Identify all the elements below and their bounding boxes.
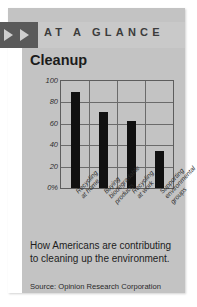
header-arrow-block [0, 22, 38, 48]
kicker-at-a-glance: AT A GLANCE [44, 26, 164, 38]
at-a-glance-card: AT A GLANCE Cleanup 100806040200% Recycl… [8, 8, 185, 293]
y-tick-100: 100 [45, 76, 58, 85]
chart-source: Source: Opinion Research Corporation [30, 282, 182, 291]
y-tick-40: 40 [50, 140, 58, 149]
bar [71, 92, 80, 188]
x-axis-category-labels: Recyclingat homeBuyingbiodegradableprodu… [54, 188, 194, 238]
y-axis-tick-labels: 100806040200% [22, 74, 58, 194]
y-tick-60: 60 [50, 119, 58, 128]
chart-title: Cleanup [30, 52, 87, 68]
left-white-gutter [8, 44, 22, 293]
chart-caption: How Americans are contributing to cleani… [30, 240, 180, 265]
y-tick-20: 20 [50, 162, 58, 171]
play-triangle-icon [4, 29, 13, 41]
play-triangle-icon-secondary [20, 29, 29, 41]
y-tick-80: 80 [50, 97, 58, 106]
